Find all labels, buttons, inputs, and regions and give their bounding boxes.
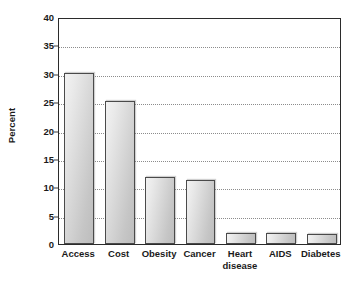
x-axis-tick-labels: AccessCostObesityCancerHeart diseaseAIDS… bbox=[58, 248, 341, 284]
y-axis-tick-label: 10 bbox=[24, 184, 54, 194]
bar-chart: Percent 0510152025303540 AccessCostObesi… bbox=[0, 0, 355, 284]
y-axis-tick-label: 0 bbox=[24, 240, 54, 250]
y-axis-tick-mark bbox=[54, 131, 58, 132]
y-axis-tick-labels: 0510152025303540 bbox=[24, 18, 54, 245]
bar bbox=[186, 180, 216, 244]
y-axis-title-text: Percent bbox=[7, 107, 18, 143]
y-axis-tick-mark bbox=[54, 46, 58, 47]
x-axis-tick-label: Heart disease bbox=[220, 248, 260, 272]
y-axis-tick-mark bbox=[54, 74, 58, 75]
y-axis-title: Percent bbox=[2, 0, 22, 250]
y-axis-tick-label: 30 bbox=[24, 70, 54, 80]
x-axis-tick-label: Cancer bbox=[179, 248, 219, 260]
x-axis-tick-label: AIDS bbox=[260, 248, 300, 260]
y-axis-tick-mark bbox=[54, 103, 58, 104]
y-axis-tick-label: 35 bbox=[24, 42, 54, 52]
bar bbox=[145, 177, 175, 244]
bar bbox=[266, 233, 296, 244]
y-axis-tick-label: 20 bbox=[24, 127, 54, 137]
y-axis-tick-label: 40 bbox=[24, 13, 54, 23]
y-axis-tick-label: 5 bbox=[24, 212, 54, 222]
x-axis-tick-label: Access bbox=[58, 248, 98, 260]
x-axis-tick-label: Diabetes bbox=[301, 248, 341, 260]
y-axis-tick-label: 15 bbox=[24, 155, 54, 165]
x-axis-tick-label: Obesity bbox=[139, 248, 179, 260]
y-axis-tick-mark bbox=[54, 159, 58, 160]
bar bbox=[226, 233, 256, 244]
plot-area bbox=[58, 18, 341, 245]
y-axis-tick-mark bbox=[54, 216, 58, 217]
bar bbox=[64, 73, 94, 244]
bar bbox=[105, 101, 135, 244]
bars-group bbox=[59, 19, 340, 244]
bar bbox=[307, 234, 337, 244]
x-axis-tick-label: Cost bbox=[98, 248, 138, 260]
y-axis-tick-mark bbox=[54, 188, 58, 189]
y-axis-tick-label: 25 bbox=[24, 98, 54, 108]
